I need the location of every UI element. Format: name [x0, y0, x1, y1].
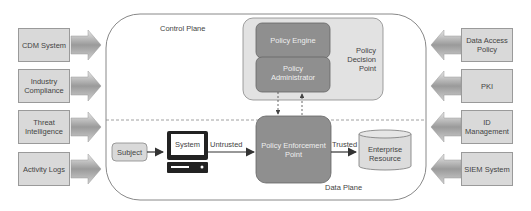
- policy-administrator-label: Policy Administrator: [262, 64, 324, 82]
- source-data-access-policy: Data Access Policy: [461, 28, 513, 62]
- policy-engine-label: Policy Engine: [256, 36, 330, 45]
- source-activity-logs: Activity Logs: [18, 152, 70, 186]
- source-pki: PKI: [461, 69, 513, 103]
- untrusted-label: Untrusted: [210, 140, 243, 149]
- subject-label: Subject: [112, 148, 147, 157]
- control-plane-label: Control Plane: [160, 24, 205, 33]
- pep-label: Policy Enforcement Point: [258, 141, 329, 159]
- source-siem-system: SIEM System: [461, 152, 513, 186]
- source-industry-compliance: Industry Compliance: [18, 69, 70, 103]
- computer-icon: [167, 131, 208, 173]
- system-label: System: [171, 140, 204, 149]
- source-threat-intelligence: Threat Intelligence: [18, 110, 70, 144]
- right-arrows: [431, 30, 461, 184]
- source-cdm-system: CDM System: [18, 28, 70, 62]
- diagram-canvas: [0, 0, 531, 211]
- source-id-management: ID Management: [461, 110, 513, 144]
- data-plane-label: Data Plane: [325, 183, 362, 192]
- enterprise-resource-label: Enterprise Resource: [359, 145, 411, 163]
- trusted-label: Trusted: [332, 140, 357, 149]
- pdp-label: Policy Decision Point: [336, 46, 376, 73]
- left-arrows: [71, 30, 101, 184]
